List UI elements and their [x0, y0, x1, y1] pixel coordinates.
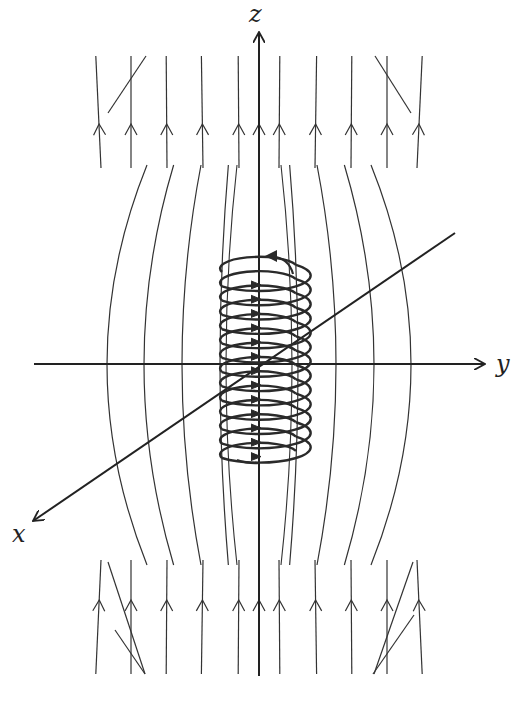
field-line: [351, 56, 352, 168]
field-line: [238, 560, 239, 674]
solenoid-field-diagram: z y x: [0, 0, 519, 704]
diagram-canvas: [0, 0, 519, 704]
field-line: [166, 56, 167, 168]
field-line: [115, 630, 145, 674]
field-line: [166, 560, 167, 674]
x-axis-label: x: [12, 522, 26, 546]
current-arrow-icon: [265, 250, 277, 262]
field-line: [108, 56, 146, 113]
field-line: [417, 560, 422, 674]
field-line: [108, 562, 145, 674]
field-line: [201, 56, 203, 168]
field-line: [201, 560, 203, 674]
z-axis-label: z: [249, 2, 262, 26]
field-line: [238, 56, 239, 168]
field-line: [279, 56, 280, 168]
field-line: [96, 56, 101, 168]
field-line: [315, 56, 317, 168]
coordinate-axes: [33, 32, 485, 676]
field-line: [373, 615, 414, 674]
field-line: [374, 562, 413, 674]
field-line: [351, 560, 352, 674]
field-line: [96, 560, 101, 674]
field-line: [375, 56, 411, 113]
field-line: [315, 560, 317, 674]
field-line: [417, 56, 422, 168]
y-axis-label: y: [496, 352, 510, 376]
field-line: [279, 560, 280, 674]
